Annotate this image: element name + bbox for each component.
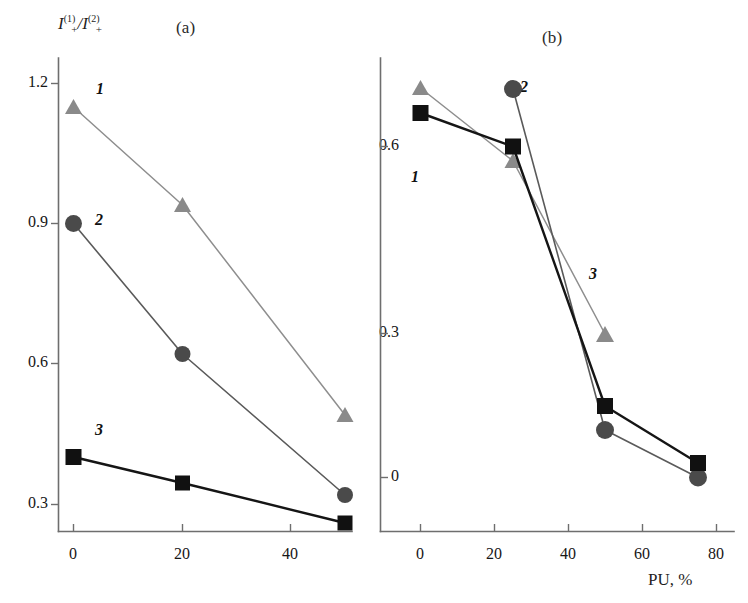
x-ticks-a xyxy=(74,524,291,532)
y-ticks-b xyxy=(381,147,389,478)
series-b-3 xyxy=(412,80,614,342)
chart-panel-a: (a) I(1)+/I(2)+ 0.3 0.6 0.9 1.2 0 20 40 … xyxy=(0,0,374,603)
x-ticks-b xyxy=(421,524,717,532)
panel-b-plot xyxy=(374,0,748,603)
chart-panel-b: (b) 0.6 0.3 0 0 20 40 60 80 PU, % 1 2 3 xyxy=(374,0,748,603)
series-b-2 xyxy=(504,80,707,487)
series-b-1 xyxy=(413,105,707,471)
figure-container: (a) I(1)+/I(2)+ 0.3 0.6 0.9 1.2 0 20 40 … xyxy=(0,0,748,603)
y-ticks-a xyxy=(51,84,59,505)
series-a-1 xyxy=(65,99,354,422)
series-a-3 xyxy=(66,449,353,531)
panel-a-plot xyxy=(0,0,374,603)
series-a-2 xyxy=(65,215,353,503)
